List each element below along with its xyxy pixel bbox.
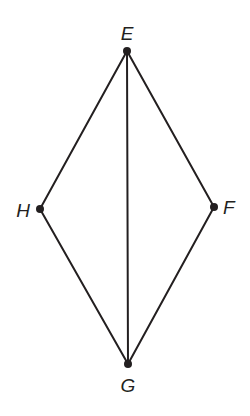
vertex-H-dot [36, 205, 44, 213]
segment-GH [40, 209, 128, 364]
diagonal-EG [127, 51, 128, 364]
vertex-G-dot [124, 360, 132, 368]
label-G: G [121, 375, 136, 396]
segment-HE [40, 51, 127, 209]
label-F: F [223, 197, 236, 218]
segment-FG [128, 207, 214, 364]
vertex-F-dot [210, 203, 218, 211]
label-H: H [16, 200, 30, 221]
quadrilateral-diagram: E F G H [0, 0, 250, 416]
segment-EF [127, 51, 214, 207]
segments [40, 51, 214, 364]
label-E: E [121, 23, 134, 44]
vertex-E-dot [123, 47, 131, 55]
